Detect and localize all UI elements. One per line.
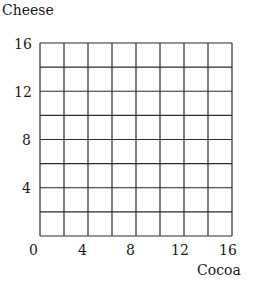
x-tick-12: 12 bbox=[171, 242, 189, 258]
y-tick-12: 12 bbox=[14, 84, 32, 100]
x-tick-8: 8 bbox=[126, 242, 135, 258]
y-tick-16: 16 bbox=[14, 36, 32, 52]
x-tick-4: 4 bbox=[78, 242, 87, 258]
y-tick-8: 8 bbox=[22, 132, 31, 148]
x-tick-16: 16 bbox=[219, 242, 237, 258]
x-axis-label: Cocoa bbox=[197, 262, 241, 278]
y-tick-4: 4 bbox=[22, 180, 31, 196]
x-tick-0: 0 bbox=[29, 242, 38, 258]
